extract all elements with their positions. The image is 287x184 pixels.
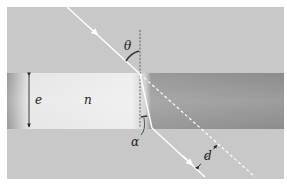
thickness-label: e xyxy=(35,94,42,106)
alpha-label: α xyxy=(131,136,139,148)
index-label: n xyxy=(84,94,92,106)
theta-label: θ xyxy=(124,40,131,52)
refraction-diagram xyxy=(0,0,287,184)
alpha-mark xyxy=(141,116,147,117)
displacement-label: d xyxy=(204,150,212,162)
